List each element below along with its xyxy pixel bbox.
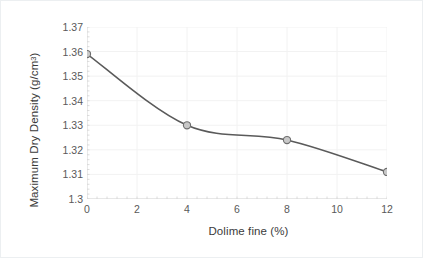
y-axis-tick-label: 1.31	[43, 168, 83, 180]
x-axis-tick-label: 4	[184, 203, 190, 215]
y-axis-tick-label: 1.32	[43, 144, 83, 156]
x-axis-title: Dolime fine (%)	[87, 225, 410, 237]
y-axis-tick-label: 1.35	[43, 70, 83, 82]
x-axis-tick-label: 10	[331, 203, 343, 215]
y-axis-title-suffix: )	[28, 52, 40, 56]
y-axis-tick-label: 1.36	[43, 46, 83, 58]
x-axis-tick-label: 8	[284, 203, 290, 215]
plot-area	[87, 27, 387, 199]
data-point-marker	[383, 168, 387, 175]
x-axis-tick-label: 12	[381, 203, 393, 215]
y-axis-tick-label: 1.34	[43, 95, 83, 107]
data-point-marker	[183, 122, 190, 129]
y-axis-tick-label: 1.37	[43, 21, 83, 33]
y-axis-tick-labels: 1.31.311.321.331.341.351.361.37	[41, 27, 83, 199]
x-axis-tick-label: 0	[84, 203, 90, 215]
vertical-gridlines	[137, 27, 387, 199]
data-point-marker	[283, 136, 290, 143]
x-axis-tick-label: 2	[134, 203, 140, 215]
data-point-marker	[87, 50, 91, 57]
x-axis-tick-labels: 024681012	[87, 203, 387, 219]
y-axis-tick-label: 1.33	[43, 119, 83, 131]
y-axis-title-text: Maximum Dry Density (g/cm	[28, 61, 40, 208]
y-axis-tick-label: 1.3	[43, 193, 83, 205]
x-axis-tick-label: 6	[234, 203, 240, 215]
chart-figure: Maximum Dry Density (g/cm3) 1.31.311.321…	[0, 0, 423, 258]
line-chart-svg	[87, 27, 387, 199]
